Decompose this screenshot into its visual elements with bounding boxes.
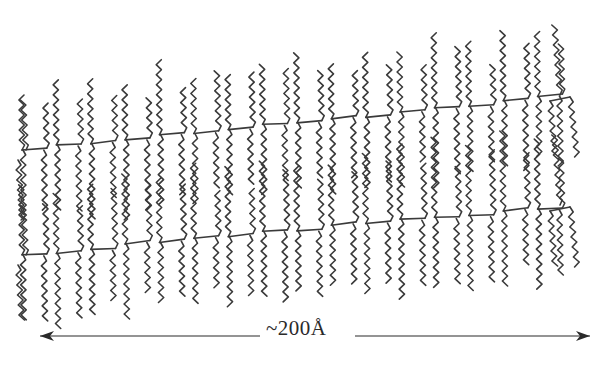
hydrocarbon-chain	[318, 71, 325, 121]
hydrocarbon-chain	[363, 52, 369, 117]
hydrocarbon-chain	[454, 109, 460, 174]
molecule-backbone	[469, 215, 494, 216]
hydrocarbon-chain	[421, 65, 427, 110]
hydrocarbon-chain	[385, 223, 391, 283]
hydrocarbon-chain	[261, 231, 267, 296]
hydrocarbon-chain	[282, 232, 288, 302]
hydrocarbon-chain	[500, 31, 506, 101]
hydrocarbon-chain	[352, 172, 359, 222]
hydrocarbon-chain	[145, 243, 151, 293]
molecule-backbone	[435, 107, 460, 108]
hydrocarbon-chain	[318, 179, 325, 229]
hydrocarbon-chain	[352, 71, 358, 116]
hydrocarbon-chain	[124, 244, 130, 319]
hydrocarbon-chain	[467, 216, 473, 291]
hydrocarbon-chain	[455, 47, 462, 107]
hydrocarbon-chain	[43, 103, 49, 148]
hydrocarbon-chain	[77, 206, 83, 251]
end-chain	[548, 211, 557, 266]
hydrocarbon-chain	[214, 71, 221, 131]
hydrocarbon-chain	[227, 237, 233, 307]
hydrocarbon-chain	[146, 181, 153, 241]
hydrocarbon-chain	[249, 72, 256, 127]
hydrocarbon-chain	[386, 65, 393, 115]
hydrocarbon-chain	[248, 236, 254, 296]
molecule-backbone	[435, 217, 460, 218]
hydrocarbon-chain	[294, 53, 300, 123]
hydrocarbon-chain	[191, 79, 197, 134]
hydrocarbon-chain	[249, 189, 255, 234]
hydrocarbon-chain	[213, 133, 219, 188]
hydrocarbon-chain	[77, 99, 83, 144]
hydrocarbon-chain	[523, 210, 529, 265]
hydrocarbon-chain	[76, 253, 82, 318]
molecule-backbone	[400, 218, 425, 219]
hydrocarbon-chain	[55, 254, 61, 329]
scale-label: ~200Å	[266, 316, 327, 341]
hydrocarbon-chain	[156, 60, 162, 135]
hydrocarbon-chain	[524, 43, 531, 98]
hydrocarbon-chain	[41, 256, 47, 321]
hydrocarbon-chain	[158, 243, 164, 303]
molecule-backbone	[228, 234, 253, 237]
hydrocarbon-chain	[364, 224, 370, 294]
end-chain	[569, 207, 580, 267]
hydrocarbon-chain	[248, 129, 254, 184]
hydrocarbon-chain	[122, 85, 128, 140]
hydrocarbon-chain	[146, 98, 152, 138]
hydrocarbon-chain	[259, 64, 265, 124]
molecule-backbone	[297, 229, 322, 231]
hydrocarbon-chain	[488, 217, 494, 282]
hydrocarbon-chain	[454, 219, 460, 284]
hydrocarbon-chain	[41, 150, 47, 210]
hydrocarbon-chain	[225, 75, 231, 130]
molecule-backbone	[56, 144, 81, 145]
molecule-backbone	[263, 124, 288, 125]
hydrocarbon-chain	[213, 238, 219, 288]
hydrocarbon-chain	[53, 80, 59, 145]
hydrocarbon-chain	[502, 211, 508, 286]
hydrocarbon-chain	[433, 217, 439, 287]
hydrocarbon-chain	[180, 88, 186, 133]
hydrocarbon-chain	[431, 33, 437, 108]
hydrocarbon-chain	[351, 224, 357, 284]
hydrocarbon-chain	[316, 231, 322, 296]
end-chain	[569, 97, 580, 157]
hydrocarbon-chain	[296, 231, 302, 291]
hydrocarbon-chain	[420, 112, 426, 162]
hydrocarbon-chain	[283, 69, 290, 124]
hydrocarbon-chain	[399, 219, 405, 299]
hydrocarbon-chain	[420, 220, 426, 285]
hydrocarbon-chain	[179, 241, 185, 296]
molecule-backbone	[469, 105, 494, 107]
hydrocarbon-chain	[534, 32, 540, 97]
hydrocarbon-chain	[330, 225, 336, 285]
hydrocarbon-chain	[466, 41, 472, 106]
hydrocarbon-chain	[192, 238, 198, 303]
hydrocarbon-chain	[43, 204, 50, 254]
hydrocarbon-chain	[316, 123, 322, 178]
hydrocarbon-chain	[76, 146, 82, 211]
hydrocarbon-chain	[112, 96, 118, 141]
hydrocarbon-chain	[397, 144, 403, 219]
hydrocarbon-chain	[328, 64, 334, 119]
molecule-backbone	[91, 249, 116, 250]
hydrocarbon-chain	[88, 79, 94, 144]
hydrocarbon-chain	[421, 163, 428, 218]
hydrocarbon-chain	[294, 166, 300, 231]
hydrocarbon-chain	[328, 165, 334, 225]
hydrocarbon-chain	[351, 118, 357, 178]
hydrocarbon-chain	[490, 65, 496, 105]
hydrocarbon-chain	[110, 251, 116, 301]
hydrocarbon-chain	[215, 191, 221, 236]
hydrocarbon-chain	[89, 249, 95, 314]
hydrocarbon-chain	[156, 178, 162, 243]
hydrocarbon-chain	[536, 209, 542, 289]
molecule-backbone	[263, 230, 288, 231]
hydrocarbon-chain	[397, 52, 403, 112]
